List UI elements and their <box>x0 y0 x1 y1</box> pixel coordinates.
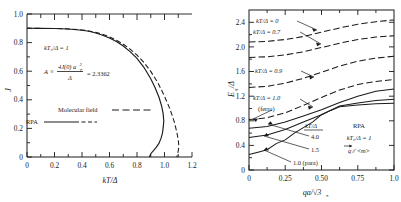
right-curve-kT07 <box>249 36 394 58</box>
left-condition-annotation: kT₀/Δ = 1 <box>44 44 69 51</box>
right-label-kT07: kT/Δ = 0.7 <box>253 28 281 35</box>
right-leader-kT10 <box>300 99 313 107</box>
left-xtick-1: 0.2 <box>50 161 60 170</box>
right-x-ticks-top <box>267 10 376 15</box>
formula-numerator-sup: 2 <box>80 62 83 67</box>
right-x-axis-label-sub: π <box>326 193 329 198</box>
legend-label-molecular-field: Molecular field <box>58 106 98 113</box>
right-info-block: RPA kT₀/Δ = 1 q ∕∕ <m> <box>344 122 371 154</box>
left-legend-rpa: RPA <box>26 118 97 125</box>
left-formula-annotation: A ≡ 4J(0) a 2 T Δ = 2.3362 <box>43 62 110 82</box>
left-xtick-3: 0.6 <box>105 161 115 170</box>
right-y-axis-label-main: E <box>227 92 236 98</box>
left-ytick-2: 0.4 <box>14 95 24 104</box>
right-ytick-6: 2.4 <box>236 18 246 27</box>
formula-lead: A ≡ <box>43 68 54 75</box>
right-label-para-15: 1.5 <box>311 146 319 153</box>
left-ytick-5: 1.0 <box>14 10 24 19</box>
right-ytick-4: 1.6 <box>236 67 246 76</box>
right-label-para-10: 1.0 (para) <box>293 159 318 167</box>
right-ytick-1: 0.4 <box>236 141 246 150</box>
right-arrow-kT07 <box>316 43 321 47</box>
right-xtick-4: 1.0 <box>389 174 399 183</box>
left-legend-molecular-field: Molecular field <box>58 106 152 113</box>
left-x-axis-label: kT/Δ <box>103 176 118 185</box>
right-y-ticks-mirror <box>389 22 394 170</box>
right-label-para-40: 4.0 <box>311 133 319 140</box>
right-leader-kT07 <box>300 32 321 44</box>
formula-value: = 2.3362 <box>87 70 110 77</box>
formula-denominator: Δ <box>67 74 72 81</box>
right-xtick-1: 0.25 <box>279 174 292 183</box>
right-leader-kT0 <box>297 21 317 30</box>
right-x-ticks <box>249 165 394 170</box>
right-xtick-3: 0.75 <box>351 174 364 183</box>
right-ytick-5: 2.0 <box>236 43 246 52</box>
right-label-kT10: kT/Δ = 1.0 <box>253 94 281 101</box>
left-y-ticks <box>27 14 32 157</box>
right-y-axis-label: E q /Δ <box>227 81 238 98</box>
right-arrow-edge-1 <box>253 119 258 123</box>
right-x-axis-label-main: qa/√3 <box>303 188 322 197</box>
left-ytick-0: 0 <box>19 153 23 162</box>
left-xtick-2: 0.4 <box>77 161 87 170</box>
right-info-rpa: RPA <box>353 122 365 129</box>
right-label-ferro: (ferro) <box>258 105 275 113</box>
left-x-ticks <box>27 152 192 157</box>
figure-svg: 0 0.2 0.4 0.6 0.8 1.0 0 0.2 0.4 0.6 0.8 … <box>0 0 401 202</box>
left-xtick-4: 0.8 <box>132 161 142 170</box>
right-ytick-2: 0.8 <box>236 116 246 125</box>
right-xtick-0: 0 <box>247 174 251 183</box>
figure-container: 0 0.2 0.4 0.6 0.8 1.0 0 0.2 0.4 0.6 0.8 … <box>0 0 401 202</box>
right-para-title-text: kT/Δ <box>305 122 317 129</box>
right-ytick-0: 0 <box>241 166 245 175</box>
right-panel: 0 0.4 0.8 1.2 1.6 2.0 2.4 0 0.25 0.50 0.… <box>227 10 399 198</box>
right-leader-para-10 <box>264 150 291 162</box>
legend-label-rpa: RPA <box>26 118 38 125</box>
right-y-axis-label-tail: /Δ <box>227 81 236 89</box>
left-y-axis-label: J <box>4 88 13 92</box>
formula-numerator: 4J(0) a <box>58 63 76 71</box>
right-para-group-title: kT/Δ <box>304 122 323 130</box>
right-info-ktc: kT₀/Δ = 1 <box>347 134 372 141</box>
left-panel: 0 0.2 0.4 0.6 0.8 1.0 0 0.2 0.4 0.6 0.8 … <box>4 10 197 185</box>
left-ytick-4: 0.8 <box>14 38 24 47</box>
right-info-q-parallel-m: q ∕∕ <m> <box>348 147 370 154</box>
left-top-ticks <box>41 14 179 20</box>
right-leader-para-40 <box>268 124 309 136</box>
right-label-kT0: kT/Δ = 0 <box>256 17 279 24</box>
left-xtick-0: 0 <box>25 161 29 170</box>
left-xtick-6: 1.2 <box>187 161 197 170</box>
right-ytick-3: 1.2 <box>236 92 246 101</box>
right-arrow-para-40 <box>268 121 273 124</box>
right-label-kT09: kT/Δ = 0.9 <box>255 67 283 74</box>
right-xtick-2: 0.50 <box>315 174 328 183</box>
right-leader-kT09 <box>301 71 314 77</box>
right-x-axis-label: qa/√3 π <box>303 188 329 198</box>
left-ytick-3: 0.6 <box>14 67 24 76</box>
left-xtick-5: 1.0 <box>160 161 170 170</box>
left-ytick-1: 0.2 <box>14 124 24 133</box>
